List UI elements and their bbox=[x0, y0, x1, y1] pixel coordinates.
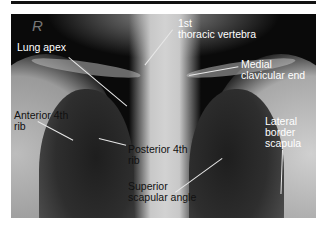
label-anterior-4th-rib: Anterior 4th rib bbox=[14, 110, 68, 132]
chest-xray-image: R Lung apex 1st thoracic vertebra Medial… bbox=[11, 14, 316, 218]
top-rule bbox=[11, 1, 316, 4]
label-posterior-4th-rib: Posterior 4th rib bbox=[128, 144, 188, 166]
label-first-thoracic-vertebra: 1st thoracic vertebra bbox=[178, 18, 256, 40]
side-marker: R bbox=[32, 17, 43, 34]
label-lung-apex: Lung apex bbox=[17, 42, 66, 53]
label-medial-clavicular-end: Medial clavicular end bbox=[241, 59, 305, 81]
label-lateral-border-scapula: Lateral border scapula bbox=[265, 116, 301, 149]
